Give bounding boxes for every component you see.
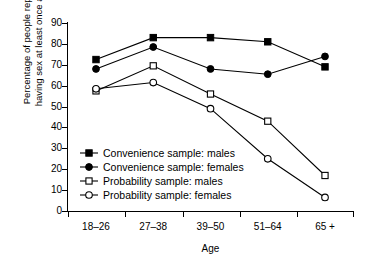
data-layer xyxy=(0,0,374,266)
data-point-3-0 xyxy=(93,86,100,93)
legend-label-3: Probability sample: females xyxy=(103,188,231,202)
legend-glyph-3 xyxy=(86,192,93,199)
legend-row-1: Convenience sample: females xyxy=(79,160,244,174)
data-point-1-2 xyxy=(207,66,214,73)
data-point-2-4 xyxy=(322,172,328,178)
data-point-0-0 xyxy=(93,56,99,62)
series-line-0 xyxy=(96,38,325,67)
data-point-0-1 xyxy=(150,34,156,40)
legend-row-0: Convenience sample: males xyxy=(79,146,244,160)
data-point-2-3 xyxy=(265,118,271,124)
data-point-0-4 xyxy=(322,64,328,70)
legend-marker-filled-circle-icon xyxy=(79,160,101,174)
legend-marker-open-square-icon xyxy=(79,174,101,188)
data-point-2-2 xyxy=(207,91,213,97)
data-point-2-1 xyxy=(150,63,156,69)
legend-row-3: Probability sample: females xyxy=(79,188,244,202)
chart-figure: Percentage of people reporting having se… xyxy=(0,0,374,266)
data-point-3-1 xyxy=(150,79,157,86)
data-point-1-0 xyxy=(93,66,100,73)
data-point-1-4 xyxy=(322,53,329,60)
legend-marker-open-circle-icon xyxy=(79,188,101,202)
legend-glyph-1 xyxy=(86,164,93,171)
legend-label-0: Convenience sample: males xyxy=(103,146,235,160)
legend-row-2: Probability sample: males xyxy=(79,174,244,188)
data-point-0-2 xyxy=(207,34,213,40)
legend-marker-filled-square-icon xyxy=(79,146,101,160)
data-point-0-3 xyxy=(265,39,271,45)
legend: Convenience sample: malesConvenience sam… xyxy=(79,146,244,202)
data-point-1-1 xyxy=(150,44,157,51)
x-axis-title: Age xyxy=(68,243,353,254)
data-point-3-4 xyxy=(322,194,329,201)
legend-label-1: Convenience sample: females xyxy=(103,160,244,174)
legend-glyph-2 xyxy=(86,178,92,184)
data-point-3-3 xyxy=(264,155,271,162)
legend-label-2: Probability sample: males xyxy=(103,174,223,188)
data-point-1-3 xyxy=(264,71,271,78)
data-point-3-2 xyxy=(207,105,214,112)
legend-glyph-0 xyxy=(86,150,92,156)
